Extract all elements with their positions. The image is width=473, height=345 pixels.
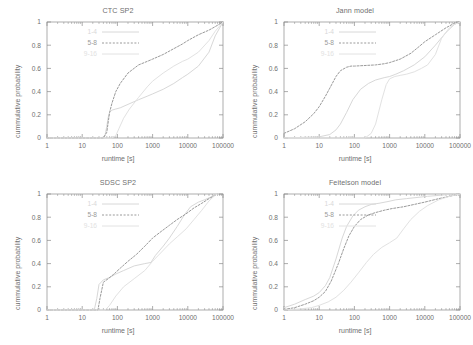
x-tick-label: 1000 <box>145 314 160 321</box>
y-tick-label: 0 <box>37 134 41 141</box>
y-axis-label: cummulative probability <box>251 237 258 310</box>
y-axis-label: cummulative probability <box>251 65 258 138</box>
legend-label-1-4: 1-4 <box>87 200 97 207</box>
y-axis-label: cummulative probability <box>14 237 21 310</box>
series-line-9-16 <box>284 22 460 138</box>
y-tick-label: 0.4 <box>269 88 278 95</box>
series-line-1-4 <box>47 194 218 310</box>
y-tick-label: 0.8 <box>269 214 278 221</box>
series-line-9-16 <box>47 22 223 138</box>
y-tick-label: 1 <box>274 18 278 25</box>
y-tick-label: 0.4 <box>32 260 41 267</box>
plot-panel-jann-model: Jann model11010010001000010000000.20.40.… <box>237 0 473 172</box>
x-tick-label: 10 <box>316 142 324 149</box>
x-tick-label: 10000 <box>416 142 435 149</box>
series-line-1-4 <box>284 194 460 308</box>
x-tick-label: 1 <box>282 142 286 149</box>
x-tick-label: 1 <box>282 314 286 321</box>
y-tick-label: 0.6 <box>32 237 41 244</box>
legend-label-9-16: 9-16 <box>84 50 98 57</box>
legend-label-5-8: 5-8 <box>324 211 334 218</box>
x-tick-label: 1000 <box>145 142 160 149</box>
y-tick-label: 1 <box>274 190 278 197</box>
y-tick-label: 0.6 <box>32 65 41 72</box>
x-tick-label: 100000 <box>212 314 234 321</box>
x-tick-label: 10 <box>316 314 324 321</box>
y-tick-label: 0.8 <box>269 42 278 49</box>
plot-area: 11010010001000010000000.20.40.60.811-45-… <box>237 0 473 172</box>
x-tick-label: 10000 <box>179 314 198 321</box>
y-tick-label: 0.6 <box>269 65 278 72</box>
y-tick-label: 0.2 <box>32 111 41 118</box>
x-axis-label: runtime [s] <box>0 155 236 162</box>
plot-area: 11010010001000010000000.20.40.60.811-45-… <box>0 172 236 344</box>
series-line-9-16 <box>284 194 460 310</box>
y-tick-label: 0.2 <box>32 283 41 290</box>
y-tick-label: 0.8 <box>32 42 41 49</box>
x-axis-label: runtime [s] <box>237 327 473 334</box>
series-line-1-4 <box>47 22 223 138</box>
x-tick-label: 100000 <box>449 314 471 321</box>
plot-area: 11010010001000010000000.20.40.60.811-45-… <box>237 172 473 344</box>
y-tick-label: 1 <box>37 190 41 197</box>
x-tick-label: 10 <box>79 314 87 321</box>
x-tick-label: 100 <box>349 314 360 321</box>
series-line-5-8 <box>284 22 460 133</box>
legend-label-9-16: 9-16 <box>321 222 335 229</box>
y-axis-label: cummulative probability <box>14 65 21 138</box>
legend-label-5-8: 5-8 <box>324 39 334 46</box>
legend-label-9-16: 9-16 <box>321 50 335 57</box>
plot-area: 11010010001000010000000.20.40.60.811-45-… <box>0 0 236 172</box>
series-line-1-4 <box>284 22 460 138</box>
x-tick-label: 10000 <box>179 142 198 149</box>
x-axis-label: runtime [s] <box>237 155 473 162</box>
y-tick-label: 0.4 <box>32 88 41 95</box>
x-axis-label: runtime [s] <box>0 327 236 334</box>
x-tick-label: 1 <box>45 314 49 321</box>
y-tick-label: 0.4 <box>269 260 278 267</box>
legend-label-5-8: 5-8 <box>87 211 97 218</box>
plot-panel-sdsc-sp2: SDSC SP211010010001000010000000.20.40.60… <box>0 172 236 344</box>
legend-label-1-4: 1-4 <box>87 28 97 35</box>
x-tick-label: 100 <box>112 142 123 149</box>
x-tick-label: 100 <box>349 142 360 149</box>
legend-label-9-16: 9-16 <box>84 222 98 229</box>
y-tick-label: 0 <box>274 306 278 313</box>
plot-panel-ctc-sp2: CTC SP211010010001000010000000.20.40.60.… <box>0 0 236 172</box>
y-tick-label: 0.8 <box>32 214 41 221</box>
x-tick-label: 1 <box>45 142 49 149</box>
y-tick-label: 0.6 <box>269 237 278 244</box>
figure-canvas: CTC SP211010010001000010000000.20.40.60.… <box>0 0 473 345</box>
series-line-5-8 <box>47 194 218 310</box>
x-tick-label: 100 <box>112 314 123 321</box>
x-tick-label: 10 <box>79 142 87 149</box>
x-tick-label: 1000 <box>382 314 397 321</box>
x-tick-label: 10000 <box>416 314 435 321</box>
legend-label-1-4: 1-4 <box>324 28 334 35</box>
y-tick-label: 0.2 <box>269 111 278 118</box>
series-line-9-16 <box>47 194 218 310</box>
plot-panel-feitelson-model: Feitelson model11010010001000010000000.2… <box>237 172 473 344</box>
x-tick-label: 1000 <box>382 142 397 149</box>
y-tick-label: 0.2 <box>269 283 278 290</box>
series-line-5-8 <box>284 194 460 309</box>
y-tick-label: 0 <box>37 306 41 313</box>
legend-label-1-4: 1-4 <box>324 200 334 207</box>
y-tick-label: 1 <box>37 18 41 25</box>
x-tick-label: 100000 <box>212 142 234 149</box>
legend-label-5-8: 5-8 <box>87 39 97 46</box>
y-tick-label: 0 <box>274 134 278 141</box>
series-line-5-8 <box>47 22 223 138</box>
x-tick-label: 100000 <box>449 142 471 149</box>
